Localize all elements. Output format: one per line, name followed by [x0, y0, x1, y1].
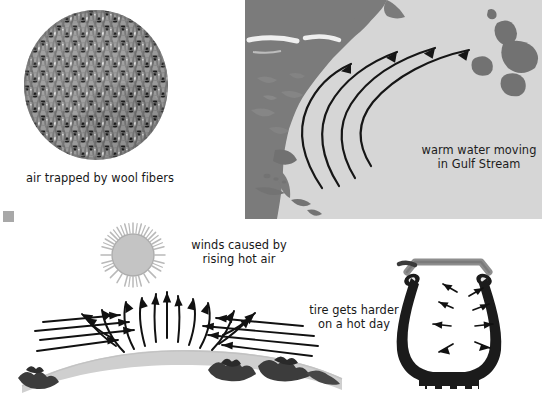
wool-caption: air trapped by wool fibers	[26, 171, 174, 185]
rising-air-arrowheads	[82, 292, 255, 328]
tire-tread	[419, 376, 479, 394]
wool-texture	[23, 9, 169, 161]
left-wind-arrow-3	[40, 330, 134, 340]
tire-rim	[399, 262, 489, 272]
winds-caption: winds caused by rising hot air	[184, 238, 294, 266]
left-wind-arrow-2	[35, 322, 129, 331]
tire-body	[397, 278, 502, 383]
tire-caption: tire gets harder on a hot day	[301, 303, 407, 331]
left-wind-arrow-4	[37, 340, 118, 351]
gray-square-artifact	[3, 211, 14, 222]
gulf-stream-map	[245, 0, 542, 219]
gulf-stream-caption: warm water moving in Gulf Stream	[418, 143, 540, 171]
winds-illustration	[16, 218, 346, 397]
right-wind-arrow-2	[203, 326, 314, 336]
illustration-page: air trapped by wool fibers	[0, 0, 548, 397]
wool-fibers-illustration	[23, 9, 169, 161]
